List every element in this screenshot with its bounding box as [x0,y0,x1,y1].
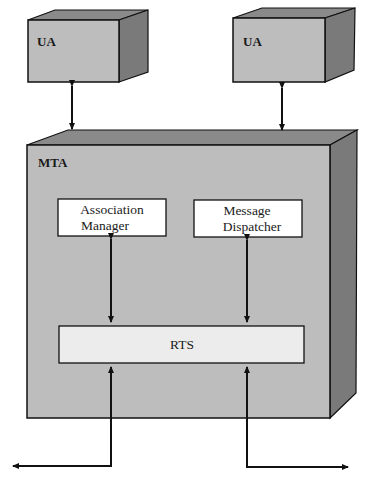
ua-right-cube: UA [233,8,355,82]
rts-box: RTS [59,326,304,363]
association-manager-line2: Manager [81,218,129,233]
mta-architecture-diagram: UA UA MTA Association Manager Message Di… [0,0,367,480]
ua-right-label: UA [243,34,262,49]
mta-cube: MTA [27,130,357,418]
message-dispatcher-line1: Message [223,203,270,218]
message-dispatcher-box: Message Dispatcher [194,200,302,237]
rts-label: RTS [170,337,194,352]
association-manager-box: Association Manager [58,199,166,236]
ua-left-label: UA [37,34,56,49]
ua-left-cube: UA [28,10,148,82]
mta-label: MTA [38,155,68,170]
message-dispatcher-line2: Dispatcher [223,219,282,234]
association-manager-line1: Association [80,202,144,217]
